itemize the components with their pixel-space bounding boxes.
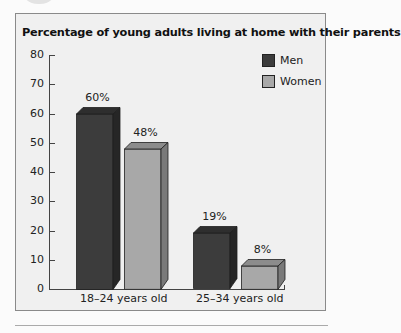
category-label: 18–24 years old — [80, 292, 168, 305]
bar-men — [193, 226, 239, 291]
value-label: 19% — [195, 210, 235, 223]
y-tick-label: 10 — [26, 253, 44, 266]
y-tick — [49, 84, 55, 85]
y-tick-label: 80 — [26, 48, 44, 61]
legend-label: Men — [280, 54, 303, 67]
value-label: 8% — [243, 243, 283, 256]
legend-swatch-men — [262, 54, 275, 67]
divider — [15, 325, 328, 326]
y-tick — [49, 231, 55, 232]
y-tick-label: 40 — [26, 165, 44, 178]
y-tick — [49, 172, 55, 173]
legend-item-men: Men — [262, 54, 303, 67]
y-tick — [49, 289, 55, 290]
y-tick-label: 50 — [26, 136, 44, 149]
legend-item-women: Women — [262, 75, 321, 88]
y-tick — [49, 55, 55, 56]
y-tick-label: 70 — [26, 77, 44, 90]
y-tick — [49, 143, 55, 144]
y-tick-label: 60 — [26, 107, 44, 120]
legend-swatch-women — [262, 75, 275, 88]
value-label: 60% — [78, 91, 118, 104]
bar-women — [124, 142, 170, 291]
chart-title: Percentage of young adults living at hom… — [22, 26, 401, 39]
y-tick — [49, 260, 55, 261]
y-tick — [49, 114, 55, 115]
value-label: 48% — [126, 126, 166, 139]
y-tick-label: 20 — [26, 224, 44, 237]
decorative-curve — [20, 0, 58, 4]
category-label: 25–34 years old — [196, 292, 284, 305]
legend-label: Women — [280, 75, 321, 88]
y-tick-label: 0 — [26, 282, 44, 295]
bar-women — [241, 259, 287, 291]
y-tick-label: 30 — [26, 194, 44, 207]
bar-men — [76, 107, 122, 292]
y-tick — [49, 201, 55, 202]
